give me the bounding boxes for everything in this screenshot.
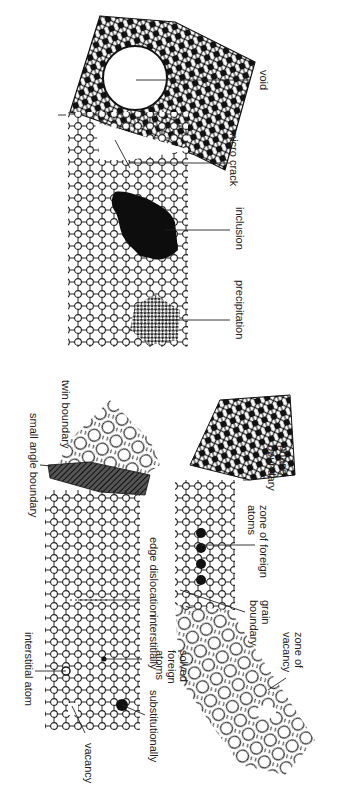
label-grain-boundary: grain boundary <box>248 600 272 660</box>
label-phase-boundary: phase boundary <box>266 445 290 500</box>
label-inclusion: inclusion <box>234 207 246 250</box>
label-precipitation: precipitation <box>234 280 246 339</box>
void <box>103 46 167 110</box>
main-lattice-strip <box>45 490 140 730</box>
zone-of-vacancy-region <box>175 605 315 775</box>
label-interstitial-atom: interstitial atom <box>23 632 35 706</box>
label-edge-dislocation: edge dislocation <box>148 537 160 617</box>
label-solved-foreign-atoms: solved foreign atoms <box>154 650 190 710</box>
label-vacancy: vacancy <box>83 743 95 783</box>
label-zone-of-vacancy: zone of vacancy <box>281 632 305 682</box>
top-panel <box>58 16 255 347</box>
label-micro-crack: micro crack <box>228 130 240 186</box>
label-small-angle-boundary: small angle boundary <box>28 413 40 518</box>
label-twin-boundary: twin boundary <box>60 380 72 449</box>
label-zone-of-foreign-atoms: zone of foreign atoms <box>246 505 270 585</box>
zone-of-vacancy <box>256 705 276 719</box>
label-void: void <box>258 70 270 90</box>
